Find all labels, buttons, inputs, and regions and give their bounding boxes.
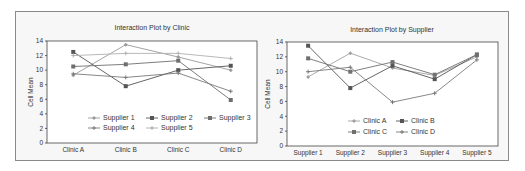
- square-marker-icon: [306, 44, 310, 48]
- interaction-plot-by-supplier: Interaction Plot by Supplier02468101214C…: [0, 0, 525, 171]
- y-tick-label: 8: [279, 83, 283, 90]
- y-tick-label: 14: [276, 38, 284, 45]
- y-tick-label: 6: [279, 98, 283, 105]
- x-tick-label: Supplier 1: [293, 149, 323, 157]
- chart-title: Interaction Plot by Supplier: [350, 26, 434, 34]
- square-marker-icon: [400, 119, 404, 123]
- y-axis-label: Cell Mean: [264, 79, 271, 109]
- square-marker-icon: [348, 70, 352, 74]
- x-tick-label: Supplier 3: [378, 149, 408, 157]
- y-tick-label: 0: [279, 142, 283, 149]
- square-marker-icon: [391, 64, 395, 68]
- y-tick-label: 2: [279, 127, 283, 134]
- y-tick-label: 10: [276, 68, 284, 75]
- legend-label: Clinic C: [363, 128, 387, 135]
- square-marker-icon: [348, 86, 352, 90]
- legend-label: Clinic D: [411, 128, 435, 135]
- x-tick-label: Supplier 4: [420, 149, 450, 157]
- y-tick-label: 4: [279, 113, 283, 120]
- square-marker-icon: [475, 53, 479, 57]
- square-marker-icon: [306, 56, 310, 60]
- y-tick-label: 12: [276, 53, 284, 60]
- x-tick-label: Supplier 5: [462, 149, 492, 157]
- square-marker-icon: [352, 130, 356, 134]
- square-marker-icon: [433, 77, 437, 81]
- legend-label: Clinic B: [411, 117, 435, 124]
- square-marker-icon: [433, 73, 437, 77]
- x-tick-label: Supplier 2: [336, 149, 366, 157]
- legend-label: Clinic A: [363, 117, 387, 124]
- square-marker-icon: [391, 60, 395, 64]
- plot-area: [287, 42, 498, 146]
